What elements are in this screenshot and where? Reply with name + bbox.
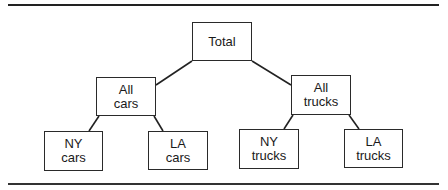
node-all-cars-line1: All <box>119 83 133 97</box>
node-all-cars-line2: cars <box>114 97 139 111</box>
node-total: Total <box>192 22 252 61</box>
node-ny-trucks: NY trucks <box>239 129 299 169</box>
edge-all-trucks-la-trucks <box>349 115 359 129</box>
node-all-trucks-line1: All <box>314 81 328 95</box>
node-ny-trucks-line2: trucks <box>252 149 287 163</box>
edge-total-all-trucks <box>252 61 291 85</box>
edge-total-all-cars <box>156 61 192 85</box>
bottom-rule <box>8 183 439 185</box>
node-la-cars: LA cars <box>148 131 208 170</box>
edge-all-cars-la-cars <box>154 116 163 131</box>
node-ny-cars-line2: cars <box>61 151 86 165</box>
edge-all-cars-ny-cars <box>89 116 99 131</box>
node-all-trucks-line2: trucks <box>304 95 339 109</box>
node-ny-cars: NY cars <box>44 131 103 171</box>
node-la-cars-line2: cars <box>166 151 191 165</box>
node-la-trucks: LA trucks <box>344 129 403 168</box>
node-all-cars: All cars <box>96 77 156 116</box>
node-ny-cars-line1: NY <box>64 137 82 151</box>
node-la-cars-line1: LA <box>170 137 186 151</box>
node-la-trucks-line2: trucks <box>356 149 391 163</box>
edge-all-trucks-ny-trucks <box>284 115 293 129</box>
node-total-label: Total <box>208 35 235 49</box>
node-all-trucks: All trucks <box>291 75 351 115</box>
node-la-trucks-line1: LA <box>366 135 382 149</box>
node-ny-trucks-line1: NY <box>260 135 278 149</box>
